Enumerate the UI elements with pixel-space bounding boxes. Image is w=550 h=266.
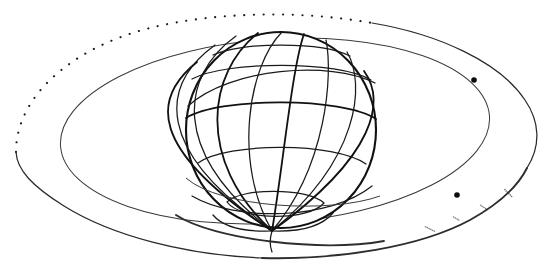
figure-canvas: •••••• •••• ••••• •••••• (0, 0, 550, 266)
orbital-globe-diagram: •••••• •••• ••••• •••••• (0, 0, 550, 266)
satellite-marker-lower (454, 192, 460, 198)
globe-limb (186, 32, 376, 228)
satellite-marker-upper (471, 77, 477, 83)
